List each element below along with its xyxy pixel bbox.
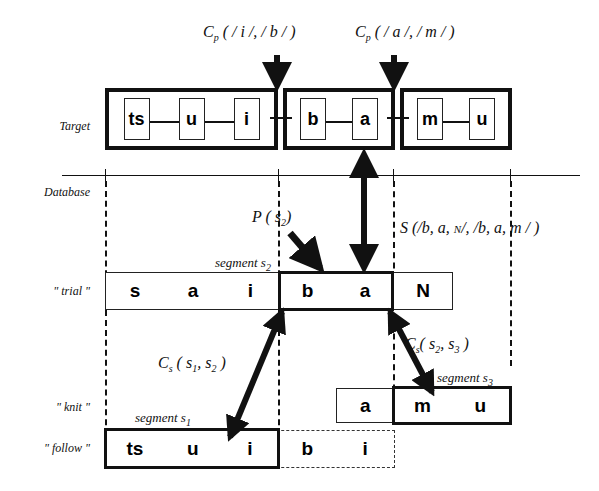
cost-label-p-s2: P ( s2) xyxy=(252,209,291,228)
cp-ib-subscript: p xyxy=(214,32,219,43)
follow-cell-b: b xyxy=(278,438,336,460)
cs-s1s2-mid: , s xyxy=(197,354,211,371)
string-row-trial: s a i b a N xyxy=(105,272,453,310)
cost-label-s-substitution: S (/b, a, N/, /b, a, m / ) xyxy=(400,220,539,236)
connector-line-groups-2-3 xyxy=(387,117,409,119)
row-label-database: Database xyxy=(10,186,90,198)
knit-cell-a: a xyxy=(337,395,394,417)
segment-s1-subscript: 1 xyxy=(186,417,191,428)
separator-tick-3 xyxy=(393,169,394,181)
trial-cell-a1: a xyxy=(164,280,222,302)
knit-cell-u: u xyxy=(451,395,509,417)
cs-s2s3-arg2: 3 xyxy=(454,344,459,355)
guide-line-1 xyxy=(105,181,107,465)
row-label-trial: " trial " xyxy=(10,285,90,297)
follow-cell-ts: ts xyxy=(106,438,164,460)
cs-s2s3-mid: , s xyxy=(440,335,454,352)
cp-am-args: ( / a /, / m / ) xyxy=(375,23,455,40)
cp-am-symbol: C xyxy=(355,23,366,40)
cost-label-cs-s1s2: Cs ( s1, s2 ) xyxy=(158,355,226,374)
segment-s2-subscript: 2 xyxy=(266,262,271,273)
row-label-knit: " knit " xyxy=(10,401,90,413)
separator-tick-1 xyxy=(105,169,106,181)
arrow-p-s2 xyxy=(290,233,320,268)
p-s2-symbol: P ( s xyxy=(252,208,281,225)
target-phoneme-u2: u xyxy=(469,98,495,140)
connector-line-groups-1-2 xyxy=(270,117,292,119)
segment-s3-text: segment s xyxy=(437,370,488,385)
diagram-canvas: Cp ( / i /, / b / ) Cp ( / a /, / m / ) … xyxy=(0,0,599,491)
cp-ib-args: ( / i /, / b / ) xyxy=(223,23,296,40)
cs-s2s3-open: ( s xyxy=(420,335,436,352)
row-label-target: Target xyxy=(10,120,90,132)
target-group-ba: b a xyxy=(283,88,395,150)
separator-tick-2 xyxy=(278,169,279,181)
trial-cell-s: s xyxy=(106,280,164,302)
segment-s3-subscript: 3 xyxy=(488,377,493,388)
cost-label-cp-am: Cp ( / a /, / m / ) xyxy=(355,24,455,43)
row-label-follow: " follow " xyxy=(2,442,90,454)
segment-label-s2: segment s2 xyxy=(215,256,271,273)
arrow-cs-s1-s2 xyxy=(230,312,282,437)
target-group-mu: m u xyxy=(400,88,512,150)
trial-cell-N: N xyxy=(394,280,452,302)
follow-cell-i2: i xyxy=(336,438,394,460)
trial-cell-b: b xyxy=(279,280,336,302)
trial-cell-a2: a xyxy=(336,280,394,302)
target-phoneme-ts: ts xyxy=(124,98,150,140)
cost-label-cs-s2s3: Cs( s2, s3 ) xyxy=(405,336,469,355)
separator-tick-4 xyxy=(510,169,511,181)
string-row-follow: ts u i b i xyxy=(105,430,395,468)
target-phoneme-a: a xyxy=(352,98,378,140)
segment-s1-text: segment s xyxy=(135,410,186,425)
target-phoneme-u1: u xyxy=(179,98,205,140)
p-s2-close: ) xyxy=(286,208,291,225)
segment-label-s3: segment s3 xyxy=(437,371,493,388)
cs-s1s2-arg2: 2 xyxy=(211,363,216,374)
target-database-separator xyxy=(62,175,580,176)
string-row-knit: a m u xyxy=(336,388,510,423)
cs-s1s2-close: ) xyxy=(220,354,225,371)
segment-s2-text: segment s xyxy=(215,255,266,270)
target-phoneme-i: i xyxy=(234,98,260,140)
follow-cell-u: u xyxy=(164,438,222,460)
cs-s2s3-close: ) xyxy=(463,335,468,352)
follow-cell-i1: i xyxy=(222,438,279,460)
cs-s1s2-open: ( s xyxy=(177,354,193,371)
cost-label-cp-ib: Cp ( / i /, / b / ) xyxy=(203,24,296,43)
cs-s1s2-subscript: s xyxy=(169,363,173,374)
guide-line-4 xyxy=(510,181,512,366)
cp-ib-symbol: C xyxy=(203,23,214,40)
knit-cell-m: m xyxy=(394,395,452,417)
cs-s2s3-symbol: C xyxy=(405,335,416,352)
s-suffix: /, /b, a, m / ) xyxy=(461,219,539,236)
target-group-tsui: ts u i xyxy=(105,88,278,150)
target-phoneme-b: b xyxy=(300,98,326,140)
s-prefix: S (/b, a, xyxy=(400,219,454,236)
cs-s1s2-symbol: C xyxy=(158,354,169,371)
trial-cell-i: i xyxy=(222,280,279,302)
segment-label-s1: segment s1 xyxy=(135,411,191,428)
target-phoneme-m: m xyxy=(417,98,443,140)
cp-am-subscript: p xyxy=(366,32,371,43)
